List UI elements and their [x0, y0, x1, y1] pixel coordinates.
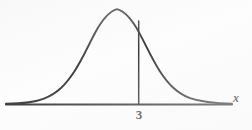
bell-curve-figure: 3 x: [0, 0, 252, 130]
normal-distribution-plot: [0, 0, 252, 130]
x-axis-tick-label-3: 3: [131, 108, 147, 121]
x-axis-label: x: [233, 92, 239, 104]
normal-distribution-curve: [6, 9, 232, 103]
